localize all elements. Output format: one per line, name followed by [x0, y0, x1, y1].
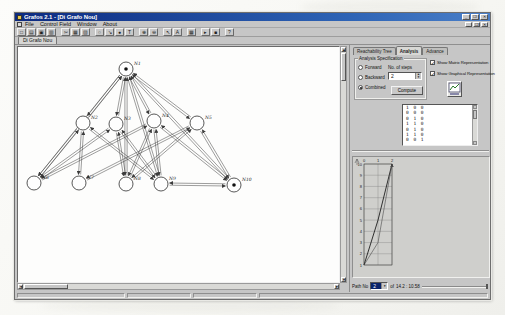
toolbar-button-run-icon[interactable]: ▸	[201, 28, 210, 36]
toolbar-button-zoom-out-icon[interactable]: ⊖	[149, 28, 158, 36]
analysis-tabstrip: Reachability TreeAnalysisAdvance	[353, 46, 448, 55]
radio-icon	[358, 65, 363, 70]
toolbar-button-cut-icon[interactable]: ✂	[61, 28, 70, 36]
graphical-representation-icon[interactable]	[447, 81, 462, 97]
toolbar-button-new-icon[interactable]: □	[17, 28, 26, 36]
x-tick-label: 2	[391, 158, 394, 163]
menu-item-about[interactable]: About	[103, 21, 117, 28]
toolbar-button-text-icon[interactable]: A	[173, 28, 182, 36]
graph-node-n7[interactable]: N7	[72, 175, 94, 190]
maximize-button[interactable]: ❐	[471, 14, 479, 20]
vertical-scroll-thumb[interactable]	[341, 53, 346, 81]
toolbar-button-stop-icon[interactable]: ■	[211, 28, 220, 36]
checkbox-show-matrix-representation[interactable]: ✓Show Matrix Representation	[430, 60, 491, 65]
canvas-vertical-scrollbar[interactable]: ▲ ▼	[340, 46, 347, 283]
radio-combined[interactable]: Combined	[358, 85, 386, 90]
node-label: N4	[161, 113, 169, 118]
app-window: Grafos 2.1 - [Di Grafo Nou] _ ❐ ✕ FileCo…	[14, 12, 491, 300]
graph-node-n4[interactable]: N4	[147, 113, 169, 128]
matrix-row[interactable]: 0 0 1	[403, 137, 477, 142]
toolbar-button-grid-icon[interactable]: ▦	[187, 28, 196, 36]
checkbox-show-graphical-representation[interactable]: ✓Show Graphical Representation	[430, 71, 491, 76]
toolbar-button-add-node-icon[interactable]: ○	[95, 28, 104, 36]
main-content: N1N2N3N4N5N6N7N8N9N10 ▲ ▼ ◄ ► Reachabili…	[15, 45, 490, 292]
toolbar-button-select-icon[interactable]: ↖	[163, 28, 172, 36]
toolbar-button-add-token-icon[interactable]: ●	[115, 28, 124, 36]
document-icon[interactable]	[17, 22, 22, 27]
steps-label: No. of steps	[388, 65, 412, 70]
matrix-scroll-thumb[interactable]	[473, 110, 477, 119]
graph-canvas[interactable]: N1N2N3N4N5N6N7N8N9N10	[17, 46, 340, 283]
mdi-close-button[interactable]: ✕	[481, 22, 488, 27]
tab-reachability-tree[interactable]: Reachability Tree	[353, 47, 396, 55]
status-segment	[193, 293, 257, 298]
slider-thumb-icon[interactable]	[486, 284, 488, 289]
graph-node-n10[interactable]: N10	[227, 177, 252, 192]
spinner-icon[interactable]: ▲▼	[415, 73, 421, 79]
node-label: N2	[90, 115, 98, 120]
path-step-chart: 12345678910012	[353, 157, 489, 277]
canvas-horizontal-scrollbar[interactable]: ◄ ►	[17, 283, 340, 290]
radio-icon	[358, 85, 363, 90]
compute-button[interactable]: Compute	[391, 86, 423, 95]
graph-node-n8[interactable]: N8	[119, 176, 141, 191]
graph-edge	[78, 132, 83, 175]
toolbar-group: ▸■	[201, 28, 220, 36]
close-button[interactable]: ✕	[480, 14, 488, 20]
path-slider[interactable]	[422, 283, 490, 289]
graph-node-n2[interactable]: N2	[76, 115, 98, 130]
y-tick-label: 2	[360, 251, 363, 256]
scroll-up-icon[interactable]	[473, 105, 477, 109]
path-no-label: Path No	[352, 284, 368, 289]
x-tick-label: 1	[377, 158, 380, 163]
menu-item-file[interactable]: File	[25, 21, 34, 28]
tab-analysis[interactable]: Analysis	[396, 46, 423, 55]
scroll-left-icon[interactable]: ◄	[18, 284, 23, 289]
graph-node-n3[interactable]: N3	[109, 116, 131, 131]
toolbar-button-add-arc-icon[interactable]: ↘	[105, 28, 114, 36]
scroll-down-icon[interactable]: ▼	[341, 277, 346, 282]
path-chart-panel: 12345678910012	[352, 156, 490, 278]
graph-drawing: N1N2N3N4N5N6N7N8N9N10	[18, 47, 339, 282]
graph-node-n6[interactable]: N6	[27, 175, 49, 190]
path-no-value: 2	[371, 283, 381, 289]
toolbar-button-paste-icon[interactable]: ▧	[81, 28, 90, 36]
matrix-listbox[interactable]: 1 0 00 0 00 1 01 1 00 1 01 1 00 0 1	[402, 104, 478, 146]
toolbar-button-help-icon[interactable]: ?	[225, 28, 234, 36]
menu-item-control-field[interactable]: Control Field	[40, 21, 71, 28]
graph-node-n9[interactable]: N9	[154, 176, 176, 191]
minimize-button[interactable]: _	[462, 14, 470, 20]
graph-edge	[129, 76, 151, 114]
toolbar-button-print-icon[interactable]: ▥	[47, 28, 56, 36]
toolbar-button-save-icon[interactable]: ▣	[37, 28, 46, 36]
steps-input[interactable]: 2 ▲▼	[388, 72, 422, 80]
toolbar-button-open-icon[interactable]: ▤	[27, 28, 36, 36]
toolbar-button-copy-icon[interactable]: ▦	[71, 28, 80, 36]
scroll-right-icon[interactable]: ►	[334, 284, 339, 289]
path-no-combo[interactable]: 2 ▼	[370, 282, 388, 290]
checkbox-label: Show Matrix Representation	[437, 60, 488, 65]
y-tick-label: 3	[360, 240, 363, 245]
mdi-restore-button[interactable]: ❐	[473, 22, 480, 27]
scroll-down-icon[interactable]	[473, 141, 477, 145]
graph-node-n5[interactable]: N5	[190, 115, 212, 130]
path-coordinates: 14.2 : 10.58	[396, 284, 420, 289]
radio-backward[interactable]: Backward	[358, 75, 385, 80]
horizontal-scroll-thumb[interactable]	[24, 284, 68, 289]
menu-item-window[interactable]: Window	[77, 21, 97, 28]
document-tab[interactable]: Di Grafo Nou	[18, 36, 57, 44]
checkbox-icon: ✓	[430, 60, 435, 65]
document-tabstrip: Di Grafo Nou	[15, 37, 490, 45]
scroll-up-icon[interactable]: ▲	[341, 47, 346, 52]
graph-edge	[200, 130, 230, 178]
matrix-scrollbar[interactable]	[472, 105, 477, 145]
toolbar-button-zoom-in-icon[interactable]: ⊕	[139, 28, 148, 36]
toolbar-group: ↖A	[163, 28, 182, 36]
radio-forward[interactable]: Forward	[358, 65, 382, 70]
radio-label: Combined	[365, 85, 386, 90]
graph-node-n1[interactable]: N1	[119, 61, 141, 76]
toolbar-button-label-icon[interactable]: T	[125, 28, 134, 36]
radio-icon	[358, 75, 363, 80]
mdi-minimize-button[interactable]: _	[465, 22, 472, 27]
tab-advance[interactable]: Advance	[422, 47, 448, 55]
